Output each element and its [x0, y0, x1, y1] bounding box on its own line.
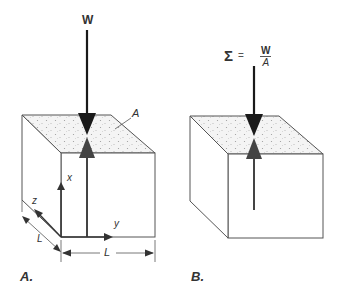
y-axis-label: y: [114, 219, 119, 229]
panel-a-label: A.: [20, 270, 33, 283]
depth-dimension-label: L: [37, 234, 43, 244]
stress-symbol: Σ: [224, 48, 233, 63]
stress-diagram: [0, 0, 348, 289]
panel-a-cube: [22, 115, 155, 237]
front-face: [61, 153, 155, 237]
front-face: [228, 154, 323, 238]
stress-fraction: W A: [260, 45, 271, 68]
panel-b-label: B.: [191, 270, 204, 283]
force-label-w: W: [82, 14, 93, 26]
panel-b-cube: [190, 116, 323, 238]
equals-sign: =: [238, 51, 244, 61]
width-dimension-label: L: [104, 247, 110, 258]
fraction-denominator: A: [262, 57, 269, 68]
z-axis-label: z: [32, 196, 37, 206]
area-label: A: [132, 108, 139, 119]
fraction-numerator: W: [260, 45, 271, 57]
x-axis-label: x: [67, 173, 72, 183]
force-arrow-down-a: [78, 30, 96, 135]
